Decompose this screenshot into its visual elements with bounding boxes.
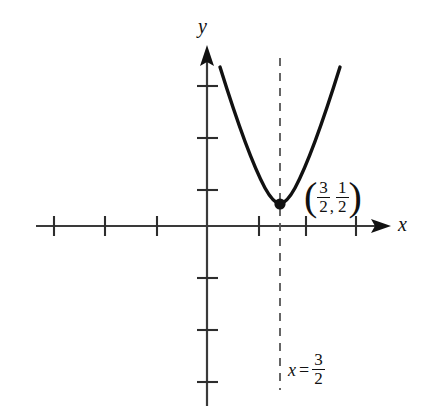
vertex-x-numerator: 3 <box>317 179 330 198</box>
vertex-coordinate-label: ( 3 2 , 1 2 ) <box>304 176 362 220</box>
symmetry-fraction: 3 2 <box>312 351 325 387</box>
symmetry-equals-sign: = <box>296 361 312 379</box>
axis-of-symmetry-label: x = 3 2 <box>288 350 325 390</box>
vertex-y-fraction: 1 2 <box>336 179 349 215</box>
vertex-x-denominator: 2 <box>317 198 330 216</box>
symmetry-denominator: 2 <box>312 370 325 388</box>
vertex-point-marker <box>274 198 285 209</box>
vertex-x-fraction: 3 2 <box>317 179 330 215</box>
symmetry-numerator: 3 <box>312 351 325 370</box>
x-axis-label: x <box>398 214 407 234</box>
vertex-y-denominator: 2 <box>336 198 349 216</box>
graph-canvas <box>0 0 430 418</box>
y-axis-label: y <box>198 16 207 36</box>
vertex-y-numerator: 1 <box>336 179 349 198</box>
vertex-close-paren: ) <box>349 179 362 216</box>
vertex-open-paren: ( <box>304 179 317 216</box>
parabola-figure: y x ( 3 2 , 1 2 ) x = 3 2 <box>0 0 430 418</box>
symmetry-variable: x <box>288 361 296 379</box>
